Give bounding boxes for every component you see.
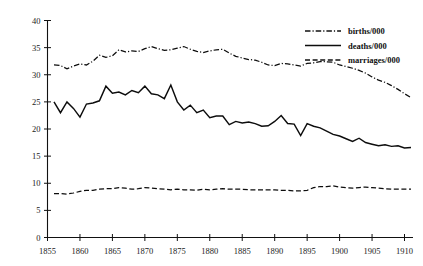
chart-svg: 0510152025303540 18551860186518701875188… [0, 0, 423, 266]
x-tick-label: 1855 [39, 246, 56, 256]
series-line-births [54, 47, 411, 98]
line-chart: 0510152025303540 18551860186518701875188… [0, 0, 423, 266]
x-tick-label: 1885 [234, 246, 251, 256]
y-tick-group: 0510152025303540 [32, 16, 51, 243]
x-tick-label: 1865 [104, 246, 121, 256]
x-tick-label: 1900 [331, 246, 348, 256]
y-tick-label: 20 [32, 124, 41, 134]
y-axis: 0510152025303540 [32, 16, 51, 243]
y-tick-label: 0 [36, 233, 40, 243]
x-tick-label: 1910 [396, 246, 413, 256]
legend-label-deaths: deaths/000 [348, 41, 387, 51]
y-tick-label: 5 [36, 205, 40, 215]
x-tick-label: 1870 [136, 246, 153, 256]
y-tick-label: 15 [32, 151, 41, 161]
x-tick-label: 1890 [266, 246, 283, 256]
chart-legend: births/000deaths/000marriages/000 [305, 26, 400, 65]
series-line-deaths [54, 85, 411, 148]
series-line-marriages [54, 186, 411, 194]
y-tick-label: 40 [32, 16, 41, 26]
x-tick-label: 1875 [169, 246, 186, 256]
x-tick-label: 1905 [364, 246, 381, 256]
legend-label-births: births/000 [348, 26, 385, 36]
y-tick-label: 30 [32, 70, 41, 80]
x-tick-label: 1895 [299, 246, 316, 256]
y-tick-label: 10 [32, 178, 41, 188]
y-tick-label: 25 [32, 97, 41, 107]
x-axis: 1855186018651870187518801885189018951900… [39, 234, 413, 256]
series-group [54, 47, 411, 195]
legend-label-marriages: marriages/000 [348, 55, 400, 65]
x-tick-label: 1860 [71, 246, 88, 256]
x-tick-label: 1880 [201, 246, 218, 256]
y-tick-label: 35 [32, 43, 41, 53]
